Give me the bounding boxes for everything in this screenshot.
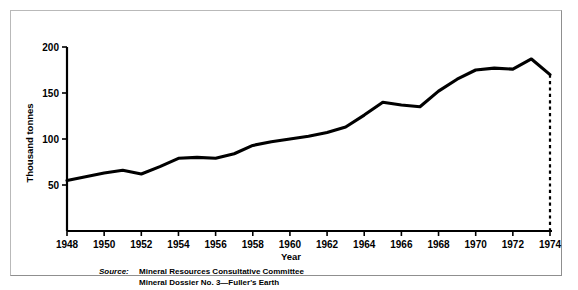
source-label: Source: bbox=[99, 266, 139, 277]
x-axis-tick-label: 1966 bbox=[390, 239, 413, 250]
figure-page: 5010015020019481950195219541956195819601… bbox=[0, 0, 578, 290]
x-axis-tick-label: 1948 bbox=[56, 239, 79, 250]
x-axis-tick-label: 1950 bbox=[93, 239, 116, 250]
x-axis-tick-label: 1954 bbox=[167, 239, 190, 250]
y-axis-tick-label: 50 bbox=[48, 180, 60, 191]
source-line-2: Mineral Dossier No. 3—Fuller's Earth bbox=[139, 277, 304, 288]
plot-area: 5010015020019481950195219541956195819601… bbox=[24, 42, 562, 262]
y-axis-tick-label: 100 bbox=[42, 134, 59, 145]
x-axis-tick-label: 1964 bbox=[353, 239, 376, 250]
line-chart: 5010015020019481950195219541956195819601… bbox=[11, 11, 563, 277]
y-axis-title: Thousand tonnes bbox=[24, 103, 35, 182]
x-axis-tick-label: 1956 bbox=[204, 239, 227, 250]
x-axis-tick-label: 1960 bbox=[279, 239, 302, 250]
y-axis-tick-label: 200 bbox=[42, 42, 59, 53]
data-series-line bbox=[67, 59, 550, 180]
x-axis-tick-label: 1974 bbox=[539, 239, 562, 250]
source-line-1: Mineral Resources Consultative Committee bbox=[139, 267, 304, 276]
x-axis-tick-label: 1958 bbox=[242, 239, 265, 250]
x-axis-tick-label: 1968 bbox=[427, 239, 450, 250]
x-axis-tick-label: 1952 bbox=[130, 239, 153, 250]
x-axis-tick-label: 1962 bbox=[316, 239, 339, 250]
x-axis-tick-label: 1970 bbox=[465, 239, 488, 250]
x-axis-title: Year bbox=[281, 251, 301, 262]
source-note: Source:Mineral Resources Consultative Co… bbox=[99, 266, 304, 288]
figure-frame: 5010015020019481950195219541956195819601… bbox=[10, 10, 562, 276]
x-axis-tick-label: 1972 bbox=[502, 239, 525, 250]
y-axis-tick-label: 150 bbox=[42, 88, 59, 99]
